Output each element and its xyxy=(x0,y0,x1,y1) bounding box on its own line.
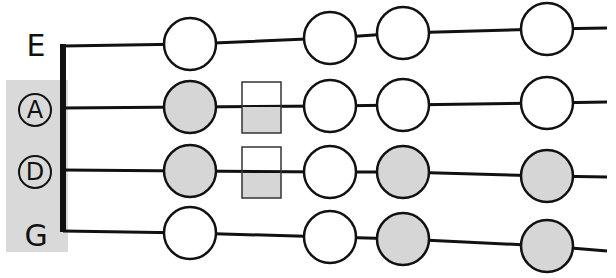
string-label-d: D xyxy=(18,155,52,189)
string-label-a: A xyxy=(18,93,52,127)
fingering-diagram xyxy=(0,0,616,278)
half-square-a xyxy=(242,82,281,133)
string-label-g: G xyxy=(16,216,56,256)
string-label-e: E xyxy=(16,26,56,66)
nut-bar xyxy=(60,44,66,232)
